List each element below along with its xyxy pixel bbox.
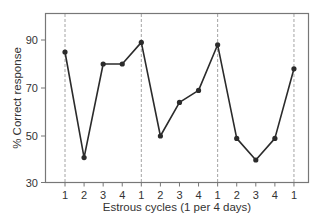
x-tick-label: 2 [157,189,163,201]
x-tick-label: 4 [272,189,278,201]
y-axis: 30507090 [26,34,46,189]
data-point [158,133,163,138]
data-point [234,136,239,141]
y-tick-label: 70 [26,82,38,94]
y-tick-label: 30 [26,177,38,189]
data-point [196,88,201,93]
x-tick-label: 1 [62,189,68,201]
x-tick-label: 3 [176,189,182,201]
x-tick-label: 2 [234,189,240,201]
y-axis-label: % Correct response [11,47,23,149]
data-point [81,155,86,160]
data-point [120,61,125,66]
data-point [253,157,258,162]
line-chart: 30507090 1234123412341 % Correct respons… [0,0,320,221]
data-point [291,66,296,71]
x-tick-label: 1 [215,189,221,201]
x-tick-label: 1 [138,189,144,201]
data-point [177,100,182,105]
x-tick-label: 3 [100,189,106,201]
x-axis: 1234123412341 [62,183,297,201]
data-point [62,49,67,54]
x-tick-label: 2 [81,189,87,201]
x-tick-label: 3 [253,189,259,201]
data-point [272,136,277,141]
data-points [62,40,296,163]
x-tick-label: 4 [119,189,125,201]
data-point [139,40,144,45]
x-tick-label: 4 [195,189,201,201]
x-tick-label: 1 [291,189,297,201]
x-axis-label: Estrous cycles (1 per 4 days) [103,201,251,213]
cycle-boundary-lines [65,14,294,183]
y-tick-label: 90 [26,34,38,46]
y-tick-label: 50 [26,130,38,142]
data-point [101,61,106,66]
data-point [215,42,220,47]
